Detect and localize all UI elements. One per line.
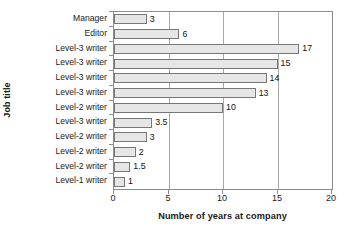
bar-value-label: 15 (281, 59, 291, 68)
bar-row: 13 (114, 86, 332, 101)
bar (114, 118, 152, 128)
x-axis-tick-label: 20 (326, 194, 336, 203)
bar-value-label: 3 (150, 133, 155, 142)
x-axis-tick-label: 0 (110, 194, 115, 203)
bar (114, 14, 147, 24)
bar-value-label: 14 (270, 74, 280, 83)
y-axis-category-labels: Manager Editor Level-3 writer Level-3 wr… (14, 11, 111, 188)
y-axis-tick-label: Level-2 writer (14, 144, 111, 159)
bar-row: 3 (114, 130, 332, 145)
y-axis-title: Job title (0, 11, 14, 188)
bar (114, 177, 125, 187)
bar-value-label: 6 (182, 30, 187, 39)
bar-row: 3 (114, 12, 332, 27)
bar (114, 29, 179, 39)
bar-row: 10 (114, 101, 332, 116)
y-axis-tick-label: Level-3 writer (14, 114, 111, 129)
bar (114, 88, 256, 98)
bar-row: 1 (114, 174, 332, 189)
bar (114, 103, 223, 113)
y-axis-tick-label: Level-2 writer (14, 159, 111, 174)
bar-series: 3 6 17 15 14 13 (114, 12, 332, 189)
bar-row: 3.5 (114, 115, 332, 130)
y-axis-tick-label: Editor (14, 26, 111, 41)
x-axis-tick-label: 5 (165, 194, 170, 203)
bar-row: 15 (114, 56, 332, 71)
bar-value-label: 10 (226, 103, 236, 112)
bar-row: 2 (114, 145, 332, 160)
bar (114, 132, 147, 142)
bar-value-label: 3.5 (155, 118, 167, 127)
bar-value-label: 1.5 (133, 162, 145, 171)
bar (114, 59, 278, 69)
y-axis-tick-label: Level-3 writer (14, 41, 111, 56)
bar (114, 73, 267, 83)
y-axis-tick-label: Level-3 writer (14, 70, 111, 85)
plot-area: 3 6 17 15 14 13 (113, 11, 333, 190)
bar-value-label: 17 (302, 44, 312, 53)
y-axis-tick-label: Level-1 writer (14, 173, 111, 188)
bar (114, 162, 130, 172)
bar-row: 17 (114, 42, 332, 57)
y-axis-tick-label: Level-2 writer (14, 100, 111, 115)
bar-row: 14 (114, 71, 332, 86)
y-axis-tick-label: Level-2 writer (14, 129, 111, 144)
bar-row: 6 (114, 27, 332, 42)
x-axis-tick-labels: 05101520 (113, 194, 332, 206)
y-axis-tick-label: Manager (14, 11, 111, 26)
x-axis-title: Number of years at company (113, 211, 332, 221)
bar-value-label: 1 (128, 177, 133, 186)
bar (114, 147, 136, 157)
y-axis-tick-label: Level-3 writer (14, 85, 111, 100)
y-axis-title-text: Job title (2, 82, 12, 117)
bar-value-label: 2 (139, 148, 144, 157)
bar-chart: Job title Manager Editor Level-3 writer … (0, 0, 354, 236)
bar (114, 44, 299, 54)
bar-row: 1.5 (114, 160, 332, 175)
x-axis-tick-label: 10 (217, 194, 227, 203)
y-axis-tick-label: Level-3 writer (14, 55, 111, 70)
bar-value-label: 3 (150, 15, 155, 24)
x-axis-tick-label: 15 (272, 194, 282, 203)
bar-value-label: 13 (259, 89, 269, 98)
